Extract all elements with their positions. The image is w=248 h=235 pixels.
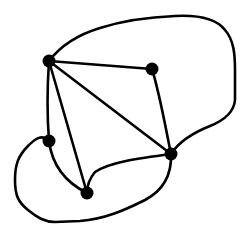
edge-a-d [48,61,50,141]
vertex-d [43,135,56,148]
edge-a-e [49,61,87,193]
edge-a-b [49,61,152,69]
graph-diagram [0,0,248,235]
edge-c-e [87,154,171,193]
vertex-e [81,187,94,200]
vertex-b [146,63,159,76]
edge-d-c-outer-loop [15,137,171,222]
vertex-a [43,55,56,68]
vertex-c [165,148,178,161]
edge-d-e [49,141,87,193]
